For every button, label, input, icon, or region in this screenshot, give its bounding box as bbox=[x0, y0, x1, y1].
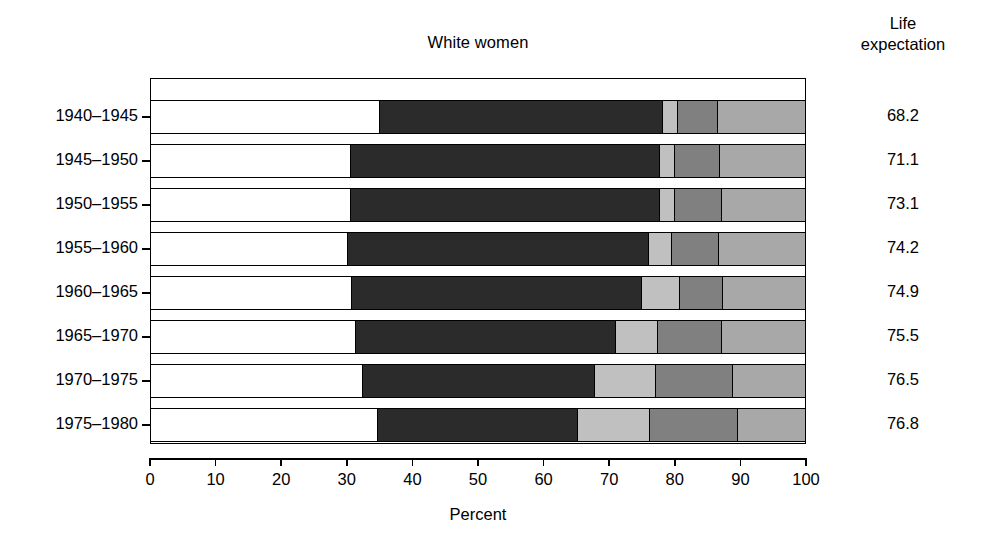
category-tick bbox=[142, 116, 150, 118]
category-tick bbox=[142, 160, 150, 162]
life-expectation-value: 68.2 bbox=[828, 106, 978, 125]
life-expectation-value: 75.5 bbox=[828, 326, 978, 345]
life-expectation-value: 74.2 bbox=[828, 238, 978, 257]
x-axis-tick bbox=[215, 458, 217, 466]
category-tick bbox=[142, 424, 150, 426]
x-axis-tick bbox=[740, 458, 742, 466]
category-label: 1975–1980 bbox=[10, 414, 138, 433]
life-expectation-value: 74.9 bbox=[828, 282, 978, 301]
x-axis-tick-label: 60 bbox=[514, 470, 574, 489]
x-axis-tick-label: 70 bbox=[579, 470, 639, 489]
category-label: 1960–1965 bbox=[10, 282, 138, 301]
x-axis-tick-label: 50 bbox=[448, 470, 508, 489]
x-axis-tick-label: 30 bbox=[317, 470, 377, 489]
x-axis-tick-label: 40 bbox=[382, 470, 442, 489]
x-axis-tick bbox=[412, 458, 414, 466]
category-label: 1950–1955 bbox=[10, 194, 138, 213]
category-tick bbox=[142, 380, 150, 382]
category-label: 1970–1975 bbox=[10, 370, 138, 389]
category-label: 1955–1960 bbox=[10, 238, 138, 257]
category-label: 1945–1950 bbox=[10, 150, 138, 169]
category-tick bbox=[142, 248, 150, 250]
x-axis-tick-label: 20 bbox=[251, 470, 311, 489]
life-expectation-value: 73.1 bbox=[828, 194, 978, 213]
category-tick bbox=[142, 336, 150, 338]
life-expectation-value: 76.8 bbox=[828, 414, 978, 433]
x-axis-tick bbox=[674, 458, 676, 466]
x-axis-tick-label: 0 bbox=[120, 470, 180, 489]
category-tick bbox=[142, 292, 150, 294]
x-axis-tick-label: 80 bbox=[645, 470, 705, 489]
x-axis-tick-label: 100 bbox=[776, 470, 836, 489]
x-axis-tick-label: 90 bbox=[710, 470, 770, 489]
category-label: 1940–1945 bbox=[10, 106, 138, 125]
x-axis-tick bbox=[477, 458, 479, 466]
life-expectation-value: 71.1 bbox=[828, 150, 978, 169]
x-axis-tick bbox=[280, 458, 282, 466]
category-label: 1965–1970 bbox=[10, 326, 138, 345]
x-axis-tick bbox=[346, 458, 348, 466]
x-axis-tick-label: 10 bbox=[186, 470, 246, 489]
chart-figure: White women Life expectation 1940–194519… bbox=[0, 0, 988, 553]
category-tick bbox=[142, 204, 150, 206]
x-axis-tick bbox=[805, 458, 807, 466]
life-expectation-value: 76.5 bbox=[828, 370, 978, 389]
x-axis-tick bbox=[543, 458, 545, 466]
x-axis-tick bbox=[149, 458, 151, 466]
x-axis-tick bbox=[608, 458, 610, 466]
x-axis-title: Percent bbox=[150, 505, 806, 524]
